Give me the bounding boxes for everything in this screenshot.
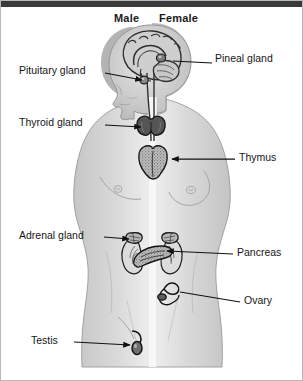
column-header-female: Female [159, 12, 198, 24]
label-adrenal-gland: Adrenal gland [19, 229, 84, 241]
label-pineal-gland: Pineal gland [215, 52, 273, 64]
adrenal-gland-left [126, 233, 142, 244]
female-body-half [152, 97, 230, 367]
label-ovary: Ovary [244, 294, 272, 306]
male-body-half [74, 97, 152, 367]
label-thymus: Thymus [239, 151, 276, 163]
label-testis: Testis [31, 334, 58, 346]
label-thyroid-gland: Thyroid gland [19, 116, 83, 128]
testis-highlight [134, 344, 137, 348]
adrenal-gland-right [162, 233, 178, 244]
label-pancreas: Pancreas [237, 246, 281, 258]
ovary-body [158, 294, 166, 300]
column-header-male: Male [114, 12, 139, 24]
pineal-gland [156, 54, 165, 62]
diagram-page: Male Female Pituitary gland Pineal gland… [0, 0, 303, 381]
gender-divider [148, 97, 157, 367]
label-pituitary-gland: Pituitary gland [19, 64, 86, 76]
testis-body [132, 341, 142, 354]
thyroid-gland [137, 116, 165, 135]
